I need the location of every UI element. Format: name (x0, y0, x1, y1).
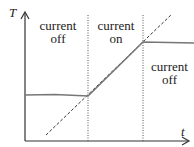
region-label-line: off (145, 73, 194, 86)
region-label-current-off-1: current off (30, 19, 86, 45)
region-label-line: off (30, 32, 86, 45)
y-axis-label: T (9, 5, 16, 21)
x-axis-label: t (181, 124, 185, 140)
region-label-line: on (90, 32, 142, 45)
region-label-current-off-2: current off (145, 60, 194, 86)
region-label-current-on: current on (90, 19, 142, 45)
